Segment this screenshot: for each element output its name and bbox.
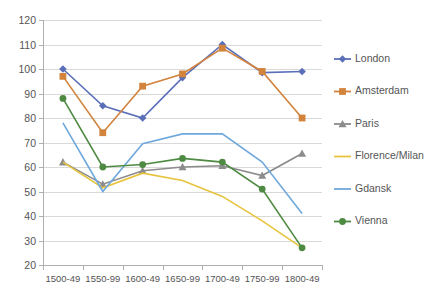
chart-legend: LondonAmsterdamParisFlorence/MilanGdansk…: [334, 52, 424, 227]
y-tick-label: 120: [18, 14, 36, 26]
legend-item-vienna[interactable]: Vienna: [334, 214, 388, 226]
data-point: [60, 95, 67, 102]
y-tick-label: 90: [24, 88, 36, 100]
y-tick-label: 30: [24, 235, 36, 247]
legend-label: London: [355, 52, 390, 64]
series-london: [59, 41, 306, 122]
legend-swatch-marker: [339, 88, 346, 95]
data-point: [299, 244, 306, 251]
y-tick-label: 20: [24, 259, 36, 271]
data-point: [259, 68, 266, 75]
legend-item-amsterdam[interactable]: Amsterdam: [334, 84, 409, 96]
data-point: [60, 73, 67, 80]
x-tick-label: 1800-49: [285, 273, 320, 284]
y-axis-tick-labels: 2030405060708090100110120: [18, 14, 36, 271]
legend-label: Florence/Milan: [355, 149, 424, 161]
x-tick-label: 1600-49: [125, 273, 160, 284]
data-point: [298, 68, 306, 76]
series-line: [63, 162, 302, 248]
series-line: [63, 48, 302, 133]
data-point: [259, 186, 266, 193]
x-tick-label: 1750-99: [245, 273, 280, 284]
x-axis-tick-labels: 1500-491550-991600-491650-991700-491750-…: [45, 273, 319, 284]
data-point: [179, 71, 186, 78]
legend-label: Vienna: [355, 214, 388, 226]
chart-canvas: 2030405060708090100110120 1500-491550-99…: [0, 0, 430, 297]
legend-label: Gdansk: [355, 182, 392, 194]
legend-swatch-marker: [339, 55, 347, 63]
y-tick-label: 70: [24, 137, 36, 149]
y-tick-label: 50: [24, 186, 36, 198]
data-series-group: [59, 41, 306, 252]
data-point: [299, 115, 306, 122]
y-tick-label: 80: [24, 112, 36, 124]
gridlines: [39, 21, 322, 266]
y-tick-label: 60: [24, 161, 36, 173]
data-point: [99, 129, 106, 136]
legend-item-london[interactable]: London: [334, 52, 390, 64]
legend-label: Paris: [355, 117, 379, 129]
legend-swatch-marker: [339, 218, 346, 225]
x-tick-label: 1500-49: [45, 273, 80, 284]
series-amsterdam: [60, 45, 306, 136]
legend-item-gdansk[interactable]: Gdansk: [334, 182, 392, 194]
series-florence-milan: [63, 162, 302, 248]
y-tick-label: 40: [24, 210, 36, 222]
data-point: [139, 161, 146, 168]
data-point: [139, 83, 146, 90]
data-point: [219, 159, 226, 166]
data-point: [179, 155, 186, 162]
y-tick-label: 110: [19, 39, 36, 51]
y-tick-label: 100: [18, 63, 36, 75]
legend-item-paris[interactable]: Paris: [334, 117, 379, 129]
x-tick-label: 1550-99: [85, 273, 120, 284]
data-point: [298, 150, 306, 157]
data-point: [219, 45, 226, 52]
x-tick-label: 1650-99: [165, 273, 200, 284]
legend-item-florence-milan[interactable]: Florence/Milan: [334, 149, 424, 161]
line-chart: 2030405060708090100110120 1500-491550-99…: [0, 0, 430, 297]
x-tick-label: 1700-49: [205, 273, 240, 284]
legend-label: Amsterdam: [355, 84, 409, 96]
data-point: [99, 164, 106, 171]
